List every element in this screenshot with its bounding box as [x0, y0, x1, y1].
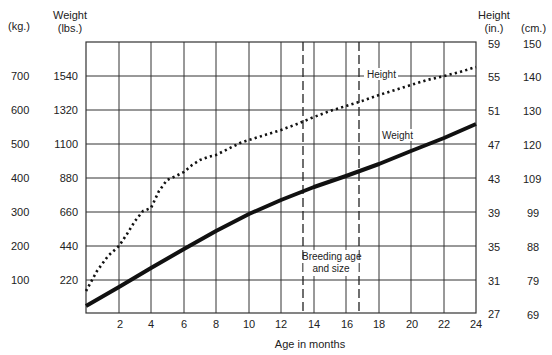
breeding-annotation-line1: Breeding age: [302, 251, 360, 263]
weight-series-label: Weight: [382, 130, 413, 142]
breeding-annotation-line2: and size: [302, 263, 360, 275]
plot-area: [0, 0, 552, 355]
height-series-label: Height: [367, 69, 396, 81]
